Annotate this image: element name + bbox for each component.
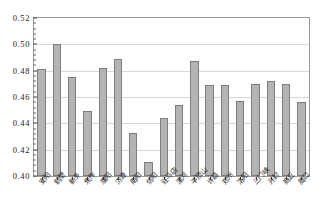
bar — [251, 84, 259, 176]
y-axis-tick-label: 0.40 — [0, 172, 30, 181]
bar — [205, 85, 213, 176]
bar — [114, 59, 122, 176]
bar — [129, 133, 137, 176]
bar — [37, 69, 45, 176]
bar — [68, 77, 76, 176]
bars-group — [34, 18, 309, 176]
bar — [190, 61, 198, 176]
bar — [267, 81, 275, 176]
y-axis-tick-label: 0.42 — [0, 145, 30, 154]
bar — [282, 84, 290, 176]
bar — [236, 101, 244, 176]
y-axis-tick-label: 0.52 — [0, 14, 30, 23]
bar-chart-figure: 0.400.420.440.460.480.500.52 安阳鹤壁新乡焦作濮阳济… — [0, 0, 326, 213]
y-axis-tick-label: 0.50 — [0, 40, 30, 49]
bar — [99, 68, 107, 176]
y-axis-tick-label: 0.46 — [0, 93, 30, 102]
bar — [53, 44, 61, 176]
bar — [175, 105, 183, 176]
y-axis-tick-label: 0.44 — [0, 119, 30, 128]
bar — [160, 118, 168, 176]
bar — [83, 111, 91, 176]
y-axis-tick-label: 0.48 — [0, 66, 30, 75]
bar — [297, 102, 305, 176]
bar — [221, 85, 229, 176]
